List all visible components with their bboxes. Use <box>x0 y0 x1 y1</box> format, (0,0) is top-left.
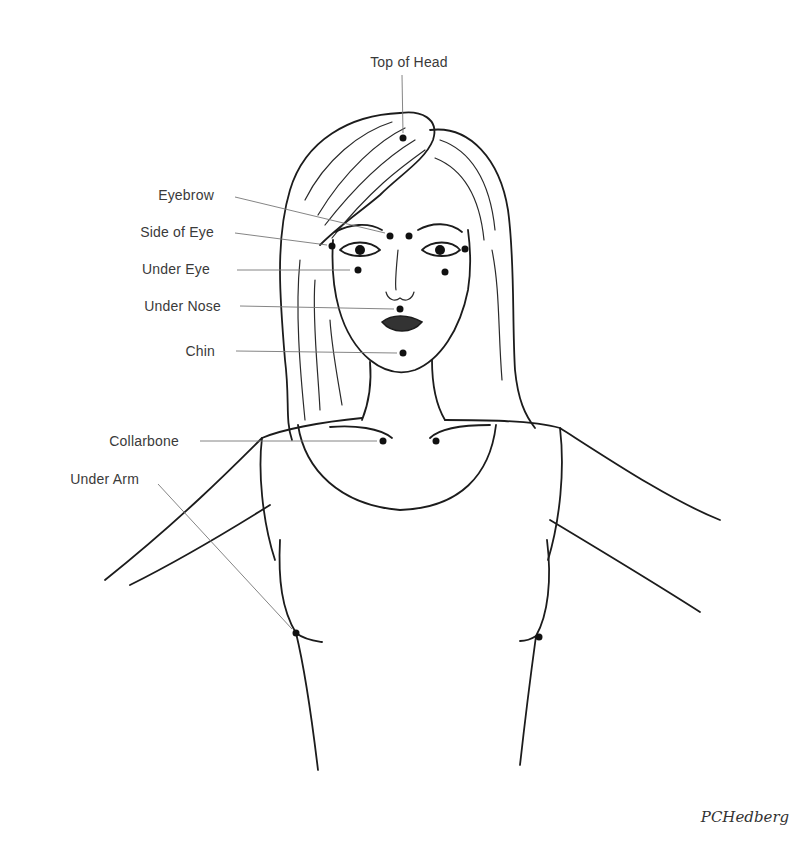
label-top-of-head: Top of Head <box>370 54 448 70</box>
left-torso <box>296 633 318 770</box>
right-collarbone <box>430 425 490 438</box>
point-under-arm-right <box>536 634 543 641</box>
point-collarbone-left <box>380 438 387 445</box>
leader-under-nose <box>240 306 394 309</box>
label-chin: Chin <box>185 343 215 359</box>
point-eyebrow-left <box>387 233 394 240</box>
right-underarm <box>550 520 700 612</box>
label-side-of-eye: Side of Eye <box>140 224 214 240</box>
point-chin <box>400 350 407 357</box>
right-torso <box>520 636 536 765</box>
label-eyebrow: Eyebrow <box>158 187 215 203</box>
point-side-of-eye-right <box>462 246 469 253</box>
left-pupil <box>355 245 365 255</box>
neck-left <box>362 362 371 420</box>
neck-right <box>432 360 445 420</box>
point-under-eye-right <box>442 269 449 276</box>
tapping-points-diagram: Top of Head Eyebrow Side of Eye Under Ey… <box>0 0 809 847</box>
labels: Top of Head Eyebrow Side of Eye Under Ey… <box>70 54 448 487</box>
left-collarbone <box>330 426 392 438</box>
right-bust <box>520 540 549 641</box>
label-collarbone: Collarbone <box>109 433 179 449</box>
point-eyebrow-right <box>406 233 413 240</box>
label-under-arm: Under Arm <box>70 471 139 487</box>
left-underarm <box>130 505 270 585</box>
point-under-arm-left <box>293 630 300 637</box>
right-strap <box>548 428 562 560</box>
point-side-of-eye-left <box>329 243 336 250</box>
right-shoulder-arm <box>445 420 720 520</box>
tapping-points <box>293 135 543 641</box>
nose <box>386 250 414 300</box>
label-under-nose: Under Nose <box>144 298 221 314</box>
leader-under-arm <box>158 484 292 629</box>
hair-outline-right <box>430 130 535 428</box>
point-top-of-head <box>400 135 407 142</box>
point-under-eye-left <box>355 267 362 274</box>
left-bust <box>280 540 322 642</box>
right-pupil <box>435 245 445 255</box>
left-strap <box>261 438 275 560</box>
point-collarbone-right <box>433 438 440 445</box>
label-under-eye: Under Eye <box>142 261 210 277</box>
right-eyebrow <box>418 224 462 232</box>
leader-top-of-head <box>402 75 403 133</box>
lips <box>382 316 422 331</box>
artist-signature: PCHedberg <box>700 808 789 826</box>
hair-swoop <box>320 112 434 245</box>
figure-illustration <box>105 112 720 770</box>
point-under-nose <box>397 306 404 313</box>
neckline <box>298 425 496 510</box>
